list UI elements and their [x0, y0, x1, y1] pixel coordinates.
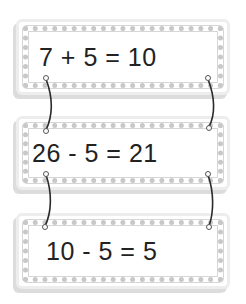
connecting-strings [0, 0, 246, 304]
string-left-2 [45, 175, 50, 226]
string-left-1 [46, 79, 51, 130]
hook-icon [44, 172, 49, 177]
hook-icon [206, 76, 211, 81]
hook-icon [207, 126, 212, 131]
string-right-2 [208, 175, 213, 226]
hook-icon [44, 129, 49, 134]
hook-icon [206, 172, 211, 177]
hook-icon [44, 76, 49, 81]
hook-icon [207, 225, 212, 230]
hook-icon [43, 225, 48, 230]
string-right-1 [208, 79, 213, 127]
